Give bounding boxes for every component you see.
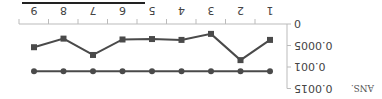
circle-marker	[31, 68, 37, 74]
x-tick-label: 7	[90, 4, 97, 17]
x-tick-label: 3	[208, 4, 215, 17]
y-tick-label: 0.0005	[294, 39, 333, 52]
y-axis-label: ANS.	[351, 83, 375, 93]
x-tick-label: 5	[149, 4, 156, 17]
square-marker	[238, 57, 244, 63]
square-marker	[120, 36, 126, 42]
chart-container: 00.00050.0010.0015ANS.123456789	[0, 0, 382, 99]
x-tick-label: 4	[178, 4, 185, 17]
square-marker	[90, 52, 96, 58]
x-tick-label: 2	[237, 4, 244, 17]
square-marker	[267, 37, 273, 43]
y-tick-label: 0	[294, 17, 301, 30]
x-tick-label: 1	[267, 4, 274, 17]
square-marker	[31, 44, 37, 50]
circle-marker	[208, 68, 214, 74]
square-marker	[61, 36, 67, 42]
square-marker	[149, 36, 155, 42]
x-tick-label: 6	[119, 4, 126, 17]
x-tick-label: 9	[31, 4, 38, 17]
y-tick-label: 0.001	[294, 60, 326, 73]
circle-marker	[238, 68, 244, 74]
circle-marker	[149, 68, 155, 74]
circle-marker	[61, 68, 67, 74]
circle-marker	[179, 68, 185, 74]
circle-marker	[120, 68, 126, 74]
line-chart: 00.00050.0010.0015ANS.123456789	[0, 0, 382, 99]
x-tick-label: 8	[60, 4, 67, 17]
circle-marker	[267, 68, 273, 74]
y-tick-label: 0.0015	[294, 82, 333, 95]
circle-marker	[90, 68, 96, 74]
square-marker	[179, 37, 185, 43]
square-marker	[208, 31, 214, 37]
